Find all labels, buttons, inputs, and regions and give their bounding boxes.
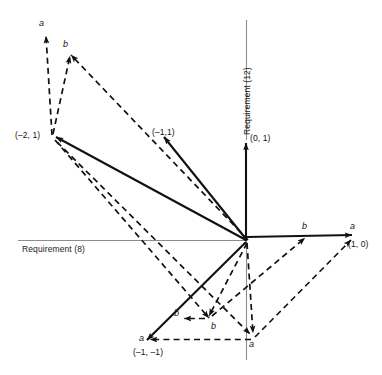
marker-b-x-axis: b [302, 222, 307, 231]
vector-minus1-minus1 [147, 242, 246, 340]
vector-1-0 [246, 235, 352, 237]
dash-origin-to-lower-a [247, 243, 253, 333]
vector-diagram-figure: lower-left a --> [0, 0, 382, 375]
point-label-minus1-minus1: (–1, –1) [133, 348, 163, 357]
solid-vectors [56, 137, 352, 340]
dash-minus2-to-a [46, 36, 52, 135]
axis-label-horizontal: Requirement (8) [22, 245, 85, 254]
axis-label-vertical: Requirement (12) [243, 67, 252, 135]
dash-minus2-to-b [53, 56, 70, 134]
point-label-1-0: (1, 0) [348, 240, 368, 249]
marker-a-lower-mid: a [249, 340, 254, 349]
marker-a-lower-left: a [139, 334, 144, 343]
vector-minus2-1 [56, 137, 246, 240]
point-label-minus1-1: (–1,1) [152, 128, 175, 137]
marker-b-lower-mid: b [211, 322, 216, 331]
dash-lowera-to-axis-a [255, 240, 351, 337]
vector-minus1-1 [164, 137, 246, 239]
marker-b-lower-left: b [174, 309, 179, 318]
dash-minus2-to-lower-b [55, 140, 209, 318]
dash-minus2-to-lower-a [57, 142, 250, 334]
dash-origin-to-lower-b [209, 243, 247, 316]
marker-b-upper-left: b [63, 40, 68, 49]
dashed-construction-lines: lower-left a --> [46, 36, 351, 340]
dash-origin-to-b-upper [71, 55, 248, 240]
point-label-0-1: (0, 1) [250, 134, 270, 143]
marker-a-x-axis: a [350, 222, 355, 231]
dash-lowerb-to-axis-b [212, 238, 305, 316]
marker-a-upper-left: a [39, 19, 44, 28]
point-label-minus2-1: (–2, 1) [15, 131, 40, 140]
